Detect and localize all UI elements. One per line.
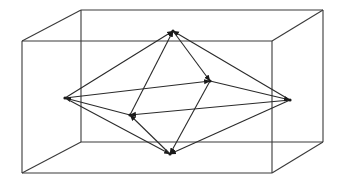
octahedron-edge-arrow bbox=[65, 81, 210, 98]
vertex-top bbox=[171, 29, 174, 32]
octahedron-edge-arrow bbox=[130, 115, 170, 154]
box-edge bbox=[272, 10, 323, 41]
vertex-left bbox=[63, 96, 66, 99]
octahedron-edge-arrow bbox=[130, 100, 290, 115]
vertex-right bbox=[288, 98, 291, 101]
octahedron-edge-arrow bbox=[170, 81, 210, 154]
octahedron-edge-arrow bbox=[210, 81, 290, 100]
octahedron-edge-arrow bbox=[65, 98, 130, 115]
vertex-bottom bbox=[168, 152, 171, 155]
octahedron bbox=[63, 29, 291, 155]
box-edge bbox=[22, 142, 81, 173]
octahedron-in-box-diagram bbox=[0, 0, 340, 182]
box-edge bbox=[272, 142, 323, 173]
octahedron-edge-arrow bbox=[173, 31, 210, 81]
vertex-mid-front bbox=[128, 113, 131, 116]
box-edge bbox=[22, 10, 81, 41]
vertex-mid-back bbox=[208, 79, 211, 82]
octahedron-edge-arrow bbox=[130, 31, 173, 115]
diagram-canvas bbox=[0, 0, 340, 182]
